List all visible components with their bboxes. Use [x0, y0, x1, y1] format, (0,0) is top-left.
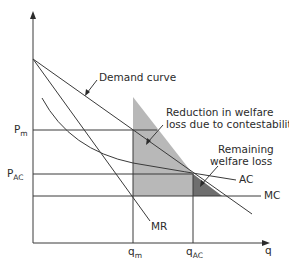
- qm-label: qm: [128, 245, 142, 260]
- pac-label: PAC: [7, 167, 24, 182]
- mc-label: MC: [264, 189, 280, 201]
- mr-label: MR: [151, 220, 167, 232]
- remaining-label-line2: welfare loss: [210, 155, 272, 167]
- y-axis-arrow-icon: [30, 11, 36, 19]
- reduction-label-line1: Reduction in welfare: [166, 106, 273, 118]
- reduction-label-line2: loss due to contestability: [166, 118, 289, 130]
- demand-curve-label: Demand curve: [99, 71, 176, 83]
- qac-label: qAC: [186, 245, 203, 260]
- economics-diagram: Demand curve Reduction in welfare loss d…: [0, 0, 289, 269]
- pm-label: Pm: [14, 123, 28, 138]
- ac-label: AC: [239, 173, 253, 185]
- mr-curve: [33, 59, 150, 221]
- x-axis-label: q: [265, 244, 272, 256]
- remaining-label-line1: Remaining: [218, 143, 274, 155]
